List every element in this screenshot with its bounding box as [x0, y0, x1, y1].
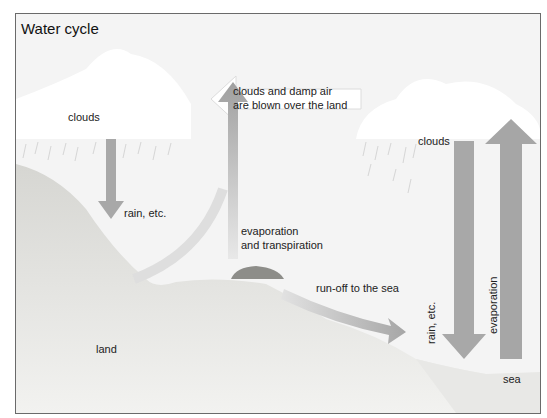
rain-arrow-left	[98, 139, 124, 219]
label-sea: sea	[503, 372, 521, 386]
rain-streaks	[23, 142, 416, 193]
label-wind-1: clouds and damp air	[233, 84, 332, 98]
evaporation-curve	[134, 189, 223, 279]
label-evap-2: and transpiration	[241, 238, 323, 252]
label-rain-left: rain, etc.	[124, 206, 166, 220]
label-clouds-right: clouds	[418, 134, 450, 148]
water-cycle-diagram: Water cycle clouds clouds clouds and dam…	[15, 13, 541, 414]
label-evaporation-right: evaporation	[486, 277, 500, 335]
label-rain-right: rain, etc.	[424, 302, 438, 344]
label-clouds-left: clouds	[68, 110, 100, 124]
vegetation	[231, 266, 284, 279]
label-land: land	[96, 342, 117, 356]
rain-arrow-right	[442, 141, 486, 359]
label-wind-2: are blown over the land	[233, 98, 347, 112]
land	[16, 164, 486, 413]
label-runoff: run-off to the sea	[316, 281, 399, 295]
diagram-title: Water cycle	[21, 20, 99, 37]
label-evap-1: evaporation	[241, 224, 299, 238]
diagram-graphics	[16, 14, 540, 413]
cloud-left	[16, 49, 191, 139]
